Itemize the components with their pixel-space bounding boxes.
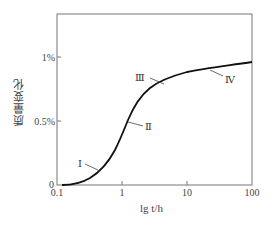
- annotation-IV: Ⅳ: [225, 74, 236, 85]
- x-tick-label-10: 10: [182, 187, 192, 198]
- annotation-III: Ⅲ: [135, 72, 145, 83]
- plot-frame: [57, 14, 252, 185]
- y-tick-label-05pct: 0.5%: [34, 116, 55, 127]
- y-axis-label: 质量变化: [12, 78, 26, 126]
- leader-II: [128, 122, 143, 126]
- y-tick-label-1pct: 1%: [42, 52, 55, 63]
- mass-change-chart: 1% 0.5% 0 0.1 1 10 100 Ⅰ Ⅱ Ⅲ Ⅳ: [0, 0, 272, 225]
- x-axis-label: lg t/h: [140, 202, 163, 214]
- annotation-II: Ⅱ: [145, 121, 152, 132]
- annotation-I: Ⅰ: [78, 158, 82, 169]
- x-tick-label-1: 1: [120, 187, 125, 198]
- leader-IV: [210, 70, 223, 76]
- leader-I: [85, 164, 98, 170]
- x-tick-label-01: 0.1: [51, 187, 64, 198]
- x-tick-label-100: 100: [245, 187, 260, 198]
